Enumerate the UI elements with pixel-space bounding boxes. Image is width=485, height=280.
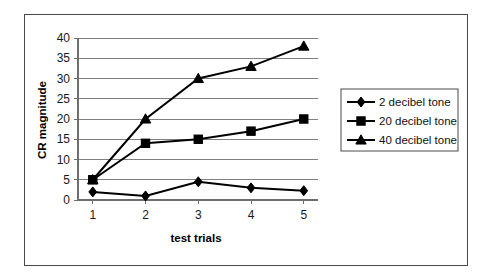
marker-diamond xyxy=(194,177,202,187)
x-tick-label: 5 xyxy=(300,208,307,222)
y-tick-label: 30 xyxy=(57,72,71,86)
marker-square xyxy=(194,135,202,143)
legend-item-label: 2 decibel tone xyxy=(379,96,451,108)
marker-diamond xyxy=(89,187,97,197)
y-tick-label: 25 xyxy=(57,92,71,106)
y-tick-label: 35 xyxy=(57,51,71,65)
series-line xyxy=(93,119,304,180)
chart-legend: 2 decibel tone20 decibel tone40 decibel … xyxy=(341,89,458,151)
legend-item-square[interactable]: 20 decibel tone xyxy=(347,115,457,127)
x-tick-label: 4 xyxy=(248,208,255,222)
y-axis-tick-labels: 0510152025303540 xyxy=(57,31,71,207)
series-triangle xyxy=(88,41,309,184)
y-tick-label: 20 xyxy=(57,112,71,126)
marker-square xyxy=(357,117,365,125)
x-tick-label: 1 xyxy=(89,208,96,222)
y-axis-title: CR magnitude xyxy=(36,81,48,159)
series-diamond xyxy=(89,177,308,201)
line-chart: 0510152025303540 12345 CR magnitude test… xyxy=(0,0,485,280)
marker-diamond xyxy=(247,183,255,193)
marker-square xyxy=(300,115,308,123)
y-tick-label: 5 xyxy=(63,173,70,187)
gridlines xyxy=(78,38,318,180)
data-series-group xyxy=(88,41,309,201)
marker-square xyxy=(141,139,149,147)
y-tick-label: 0 xyxy=(63,193,70,207)
legend-item-label: 20 decibel tone xyxy=(379,115,457,127)
marker-triangle xyxy=(299,41,309,50)
series-square xyxy=(89,115,308,184)
x-tick-label: 3 xyxy=(195,208,202,222)
legend-item-label: 40 decibel tone xyxy=(379,134,457,146)
chart-figure: 0510152025303540 12345 CR magnitude test… xyxy=(0,0,485,280)
axis-tickmarks xyxy=(74,38,304,204)
y-tick-label: 10 xyxy=(57,153,71,167)
x-axis-tick-labels: 12345 xyxy=(89,208,307,222)
marker-diamond xyxy=(300,186,308,196)
x-axis-title: test trials xyxy=(170,232,221,244)
marker-square xyxy=(247,127,255,135)
x-tick-label: 2 xyxy=(142,208,149,222)
y-tick-label: 40 xyxy=(57,31,71,45)
y-tick-label: 15 xyxy=(57,132,71,146)
